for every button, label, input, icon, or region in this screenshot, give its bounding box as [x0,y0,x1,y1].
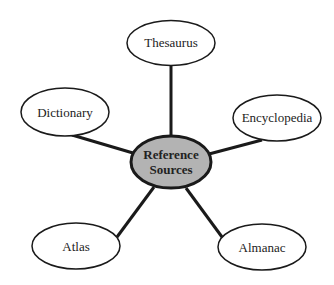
connector-encyclopedia [209,140,262,154]
node-almanac: Almanac [218,224,306,270]
node-dictionary: Dictionary [21,88,109,136]
node-label: Encyclopedia [242,110,313,125]
center-label-line2: Sources [149,162,192,177]
node-atlas: Atlas [32,223,120,269]
concept-map: Thesaurus Dictionary Encyclopedia Atlas … [0,0,334,285]
connector-atlas [117,187,154,237]
node-thesaurus: Thesaurus [127,21,215,66]
node-encyclopedia: Encyclopedia [233,95,321,141]
connector-dictionary [72,135,133,153]
node-label: Atlas [62,239,89,254]
node-label: Dictionary [37,105,93,120]
center-label-line1: Reference [143,147,199,162]
connector-almanac [186,188,222,237]
center-node: Reference Sources [131,136,211,188]
node-label: Almanac [239,240,286,255]
node-label: Thesaurus [144,35,197,50]
